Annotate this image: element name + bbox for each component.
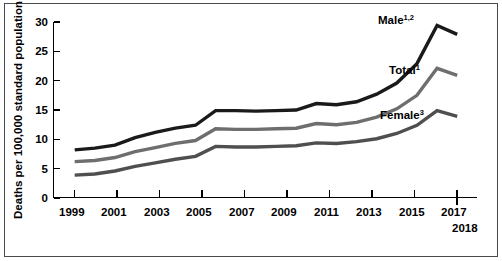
x-tick-label: 2005 [186,206,212,218]
y-tick-label: 15 [35,104,48,116]
y-axis-title: Deaths per 100,000 standard population [12,1,24,219]
x-tick-label: 2001 [101,206,127,218]
x-tick-label: 2015 [399,206,425,218]
x-tick-label: 1999 [59,206,85,218]
y-axis-ticks [54,22,61,198]
x-tick-label: 2003 [144,206,170,218]
series-label-male: Male1,2 [378,13,414,26]
series-label-total: Total1 [389,63,420,76]
series-label-female: Female3 [380,108,424,121]
x-tick-label-end: 2018 [452,222,478,234]
line-chart-plot: Deaths per 100,000 standard population 3… [0,0,502,261]
data-series-group [75,26,458,176]
y-tick-label: 30 [35,16,48,28]
x-tick-label: 2007 [229,206,255,218]
x-axis-tick-labels: 1999 2001 2003 2005 2007 2009 2011 2013 … [59,206,478,234]
x-tick-label: 2009 [271,206,297,218]
y-tick-label: 25 [35,45,48,57]
chart-figure: Deaths per 100,000 standard population 3… [0,0,502,261]
y-tick-label: 5 [42,163,49,175]
x-tick-label: 2017 [441,206,467,218]
y-axis-tick-labels: 30 25 20 15 10 5 0 [35,16,48,204]
x-tick-label: 2011 [314,206,340,218]
y-tick-label: 0 [42,192,48,204]
y-tick-label: 20 [35,75,48,87]
y-tick-label: 10 [35,133,48,145]
x-tick-label: 2013 [356,206,382,218]
